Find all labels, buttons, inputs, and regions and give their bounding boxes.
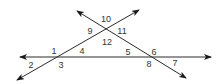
angle-labels-group: 123456789101112 <box>28 14 177 70</box>
angle-label-8: 8 <box>146 59 151 69</box>
angle-diagram: 123456789101112 <box>0 0 218 84</box>
lines-group <box>17 10 211 80</box>
angle-label-9: 9 <box>87 26 92 36</box>
angle-label-5: 5 <box>125 47 130 57</box>
angle-label-7: 7 <box>172 58 177 68</box>
angle-label-4: 4 <box>79 46 84 56</box>
angle-label-2: 2 <box>28 60 33 70</box>
angle-label-6: 6 <box>151 47 156 57</box>
angle-label-12: 12 <box>102 37 112 47</box>
angle-label-1: 1 <box>51 46 56 56</box>
angle-label-11: 11 <box>117 26 126 36</box>
angle-label-3: 3 <box>58 60 63 70</box>
line-falling <box>77 11 186 78</box>
line-rising <box>17 10 139 80</box>
angle-label-10: 10 <box>101 14 111 24</box>
